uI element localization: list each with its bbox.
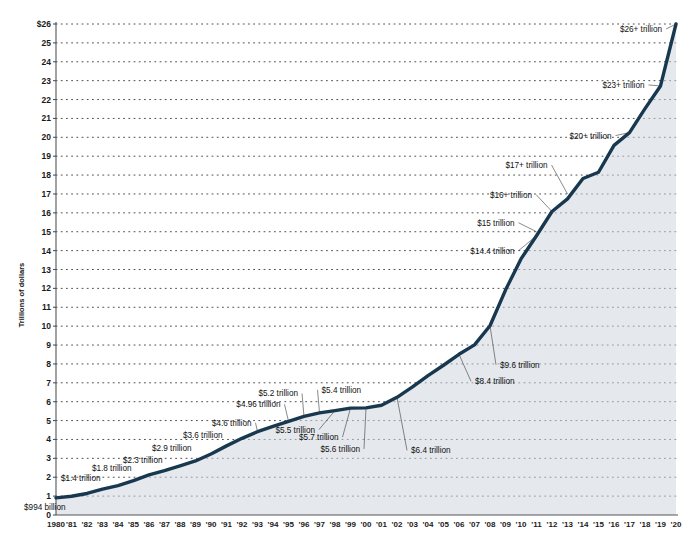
y-tick-label: 22 (42, 95, 52, 105)
x-tick-label: '18 (640, 520, 651, 529)
y-tick-label: 21 (42, 113, 52, 123)
annotation-label: $8.4 trillion (475, 377, 515, 386)
x-tick-label: '94 (268, 520, 279, 529)
y-tick-label: 25 (42, 38, 52, 48)
annotation-label: $5.6 trillion (320, 445, 360, 454)
x-tick-label: '05 (438, 520, 449, 529)
y-tick-label: 6 (46, 397, 51, 407)
x-tick-label: '97 (314, 520, 325, 529)
x-tick-label: '88 (175, 520, 186, 529)
annotation-label: $2.9 trillion (152, 444, 192, 453)
annotation-label: $14.4 trillion (470, 247, 515, 256)
x-tick-label: '84 (113, 520, 124, 529)
x-tick-label: '98 (330, 520, 341, 529)
y-tick-label: 9 (46, 340, 51, 350)
x-tick-label: '93 (252, 520, 263, 529)
y-tick-label: 4 (46, 434, 51, 444)
x-tick-label: '82 (82, 520, 93, 529)
x-tick-label: '17 (624, 520, 635, 529)
annotation-label: $17+ trillion (505, 161, 548, 170)
x-tick-label: '08 (485, 520, 496, 529)
y-tick-label: 17 (42, 189, 52, 199)
annotation-label: $1.4 trillion (61, 474, 101, 483)
x-tick-label: '92 (237, 520, 248, 529)
y-tick-label: 11 (42, 302, 51, 312)
annotation-leader (552, 165, 568, 194)
x-tick-label: '04 (423, 520, 434, 529)
annotation-label: $20+ trillion (569, 132, 612, 141)
annotation-label: $5.7 trillion (299, 433, 339, 442)
x-tick-label: '20 (671, 520, 682, 529)
x-tick-label: '06 (454, 520, 465, 529)
annotation-label: $2.3 trillion (123, 456, 163, 465)
x-tick-label: '07 (469, 520, 480, 529)
area-shading (56, 24, 676, 515)
y-tick-label: 18 (42, 170, 52, 180)
annotation-label: $5.4 trillion (322, 386, 362, 395)
annotation-label: $23+ trillion (602, 81, 645, 90)
x-axis: 1980'81'82'83'84'85'86'87'88'89'90'91'92… (47, 515, 682, 529)
x-tick-label: '87 (159, 520, 170, 529)
x-tick-label: '02 (392, 520, 403, 529)
y-tick-label: 1 (46, 491, 51, 501)
y-tick-label: 19 (42, 151, 52, 161)
y-tick-label: 15 (42, 227, 52, 237)
annotation-label: $3.6 trillion (183, 431, 223, 440)
x-tick-label: '83 (97, 520, 108, 529)
y-tick-label: 23 (42, 76, 52, 86)
x-tick-label: '90 (206, 520, 217, 529)
y-tick-label: 7 (46, 378, 51, 388)
y-tick-label: 3 (46, 453, 51, 463)
area-fill (56, 24, 676, 515)
annotation-label: $15 trillion (477, 219, 515, 228)
annotation-leader (318, 390, 320, 413)
x-tick-label: '13 (562, 520, 573, 529)
x-tick-label: '96 (299, 520, 310, 529)
annotation-label: $994 billion (24, 503, 66, 512)
y-tick-label: 5 (46, 416, 51, 426)
annotation-label: $6.4 trillion (411, 446, 451, 455)
x-tick-label: '16 (609, 520, 620, 529)
x-tick-label: '95 (283, 520, 294, 529)
x-tick-label: '99 (345, 520, 356, 529)
x-tick-label: '09 (500, 520, 511, 529)
annotation-label: $9.6 trillion (500, 361, 540, 370)
annotation-leader (649, 85, 661, 86)
line-chart: 0123456789101112131415161718192021222324… (0, 0, 689, 558)
x-tick-label: '01 (376, 520, 387, 529)
y-tick-label: $26 (37, 19, 51, 29)
annotation-leader (285, 404, 289, 421)
x-tick-label: '19 (655, 520, 666, 529)
x-tick-label: '00 (361, 520, 372, 529)
x-tick-label: '12 (547, 520, 558, 529)
x-tick-label: '86 (144, 520, 155, 529)
y-tick-label: 14 (42, 246, 52, 256)
annotation-label: $4.96 trillion (236, 400, 281, 409)
annotation-label: $5.2 trillion (258, 389, 298, 398)
y-tick-label: 12 (42, 283, 52, 293)
x-tick-label: '81 (66, 520, 77, 529)
annotation-label: $4.6 trillion (212, 419, 252, 428)
x-tick-label: '15 (593, 520, 604, 529)
annotation-label: $16+ trillion (490, 191, 533, 200)
x-tick-label: '03 (407, 520, 418, 529)
y-axis: 0123456789101112131415161718192021222324… (37, 19, 56, 520)
x-tick-label: '10 (516, 520, 527, 529)
x-tick-label: '85 (128, 520, 139, 529)
annotation-leader (519, 223, 537, 232)
x-tick-label: '11 (531, 520, 542, 529)
y-tick-label: 24 (42, 57, 52, 67)
y-axis-title: Trillions of dollars (17, 263, 26, 328)
chart-container: 0123456789101112131415161718192021222324… (0, 0, 689, 558)
y-tick-label: 20 (42, 132, 52, 142)
annotation-leader (302, 393, 304, 416)
annotation-label: $26+ trillion (620, 25, 663, 34)
annotation-leader (536, 195, 552, 212)
annotation-label: $1.8 trillion (92, 464, 132, 473)
y-tick-label: 8 (46, 359, 51, 369)
x-tick-label: '91 (221, 520, 232, 529)
x-tick-label: '14 (578, 520, 589, 529)
y-tick-label: 2 (46, 472, 51, 482)
x-tick-label: 1980 (47, 520, 65, 529)
y-tick-label: 16 (42, 208, 52, 218)
